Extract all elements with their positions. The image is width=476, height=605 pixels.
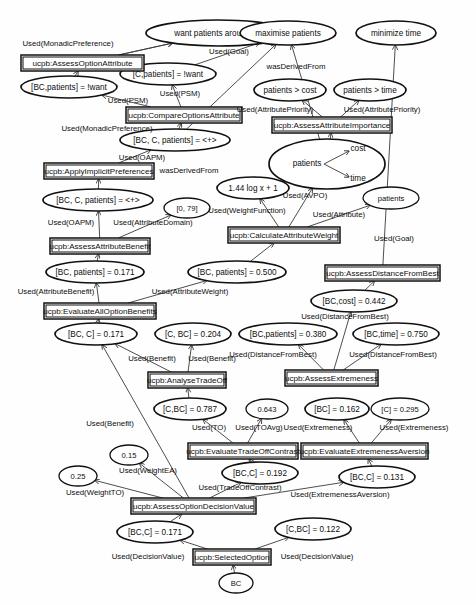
entity-node[interactable]: [BC,time] = 0.750 xyxy=(353,323,439,345)
entity-node[interactable]: [BC, C] = 0.171 xyxy=(55,323,137,345)
activity-node[interactable]: ucpb:AssessDistanceFromBest xyxy=(325,265,440,281)
entity-node[interactable]: [BC,C] = 0.131 xyxy=(339,466,415,488)
activity-label: ucpb:SelectedOption xyxy=(194,553,269,562)
entity-node[interactable]: patients xyxy=(363,187,419,209)
activity-label: ucpb:AssessAttributeBenefit xyxy=(49,242,151,251)
activity-node[interactable]: ucpb:AssessAttributeBenefit xyxy=(49,238,151,254)
activity-node[interactable]: ucpb:EvaluateTradeOffContrast xyxy=(186,443,300,459)
edge-label: Used(DecisionValue) xyxy=(112,552,185,561)
entity-node[interactable]: [BC, C, patients] = <+> xyxy=(43,189,153,211)
entity-node[interactable]: 0.15 xyxy=(110,445,148,465)
activity-node[interactable]: ucpb:CalculateAttributeWeight xyxy=(228,227,340,243)
entity-node[interactable]: [BC,patients] = !want xyxy=(21,76,117,98)
entity-ellipse xyxy=(269,139,385,189)
edge-label: Used(PSM) xyxy=(108,96,149,105)
entity-label: [BC,cost] = 0.442 xyxy=(322,297,385,306)
edge-label: Used(DistanceFromBest) xyxy=(229,350,317,359)
edge-label: Used(Goal) xyxy=(374,234,414,243)
activity-label: ucpb:EvaluateTradeOffContrast xyxy=(186,447,300,456)
graph-edge xyxy=(233,565,234,573)
entity-node[interactable]: [BC,C] = 0.171 xyxy=(117,521,193,543)
entity-node[interactable]: 0.643 xyxy=(246,399,288,419)
edge-label: Used(DecisionValue) xyxy=(281,552,354,561)
edge-label: Used(Attribute) xyxy=(313,210,366,219)
entity-node[interactable]: [BC, patients] = 0.171 xyxy=(46,261,144,283)
entity-label: maximise patients xyxy=(255,29,321,38)
edge-label: Used(WeightEA) xyxy=(119,466,177,475)
graph-edge xyxy=(180,540,207,549)
activity-node[interactable]: ucpb:EvaluateAllOptionBenefits xyxy=(43,303,156,319)
entity-node[interactable]: 1.44 log x + 1 xyxy=(217,177,289,199)
entity-node[interactable]: minimize time xyxy=(356,21,436,45)
activity-label: ucpb:CalculateAttributeWeight xyxy=(230,231,339,240)
edge-label: Used(MonadicPreference) xyxy=(61,124,152,133)
entity-node[interactable]: 0.25 xyxy=(59,466,97,486)
entity-label: [C,BC] = 0.787 xyxy=(163,405,217,414)
edge-label: Used(DistanceFromBest) xyxy=(349,350,437,359)
entity-node[interactable]: [0, 79] xyxy=(164,198,210,218)
activity-node[interactable]: ucpb:AssessOptionDecisionValue xyxy=(131,498,256,514)
graph-edge xyxy=(96,283,99,303)
graph-edge xyxy=(365,281,375,290)
entity-node[interactable]: [C, BC] = 0.204 xyxy=(155,323,231,345)
activity-label: ucpb:AnalyseTradeOff xyxy=(147,376,228,385)
activity-label: ucpb:AssessExtremeness xyxy=(285,374,378,383)
activity-node[interactable]: ucpb:AssessOptionAttribute xyxy=(21,55,144,71)
entity-node[interactable]: [BC,C] = 0.192 xyxy=(222,462,298,484)
activity-node[interactable]: ucpb:EvaluateExtremenessAversion xyxy=(300,443,430,459)
activity-node[interactable]: ucpb:SelectedOption xyxy=(193,549,271,565)
activity-label: ucpb:AssessDistanceFromBest xyxy=(326,269,439,278)
edge-label: Used(AttributePriority) xyxy=(344,105,421,114)
entity-label: [BC, C, patients] = <+> xyxy=(56,196,140,205)
activity-node[interactable]: ucpb:CompareOptionsAttribute xyxy=(126,107,242,123)
entity-node[interactable]: BC xyxy=(219,573,253,593)
entity-label: [BC,C] = 0.192 xyxy=(233,469,287,478)
entity-node[interactable]: [C,BC] = 0.122 xyxy=(275,518,351,540)
edge-label: Used(AttributeDomain) xyxy=(113,218,193,227)
entity-node[interactable]: [BC,cost] = 0.442 xyxy=(311,290,397,312)
edge-label: wasDerivedFrom xyxy=(266,62,326,71)
entity-label: [BC, C] = 0.171 xyxy=(68,330,125,339)
entity-label: [BC,patients] = 0.380 xyxy=(250,330,327,339)
activity-node[interactable]: ucpb:ApplyImplicitPreferences xyxy=(44,163,154,179)
edge-label: Used(AVPO) xyxy=(283,191,328,200)
edge-label: Used(ExtremenessAversion) xyxy=(290,490,389,499)
entity-node[interactable]: patients > cost xyxy=(254,79,326,101)
edge-label: Used(MonadicPreference) xyxy=(22,39,113,48)
entity-label: BC xyxy=(231,579,242,588)
entity-label: [BC,time] = 0.750 xyxy=(364,330,428,339)
graph-edge xyxy=(170,514,182,522)
entity-node[interactable]: patients > time xyxy=(334,79,406,101)
entity-node[interactable]: [C,BC] = 0.787 xyxy=(154,398,226,420)
entity-node[interactable]: [C] = 0.295 xyxy=(371,398,429,420)
graph-edge xyxy=(250,243,273,261)
activity-label: ucpb:AssessOptionDecisionValue xyxy=(133,502,254,511)
provenance-graph-svg: want patients around 50maximise patients… xyxy=(0,0,476,605)
activity-node[interactable]: ucpb:AnalyseTradeOff xyxy=(147,372,228,388)
entity-label: patients xyxy=(378,194,405,203)
entity-node[interactable]: maximise patients xyxy=(240,21,336,45)
entity-label: patients > cost xyxy=(263,86,317,95)
entity-node[interactable]: [BC] = 0.162 xyxy=(305,398,369,420)
entity-label: patients > time xyxy=(343,86,397,95)
entity-node[interactable]: patientscosttime xyxy=(269,139,385,189)
entity-label: [BC, patients] = 0.171 xyxy=(56,268,135,277)
graph-edge xyxy=(383,45,395,265)
entity-label: [BC, patients] = 0.500 xyxy=(198,268,277,277)
entity-inner-label-cost: cost xyxy=(350,144,366,153)
edge-label: Used(Extremeness) xyxy=(380,423,449,432)
graph-edge xyxy=(330,133,331,139)
activity-label: ucpb:CompareOptionsAttribute xyxy=(128,111,240,120)
graph-edge xyxy=(188,388,189,398)
activity-node[interactable]: ucpb:AssessExtremeness xyxy=(285,370,378,386)
entity-label: 0.25 xyxy=(71,472,86,481)
activity-label: ucpb:EvaluateExtremenessAversion xyxy=(300,447,430,456)
entity-node[interactable]: [BC,patients] = 0.380 xyxy=(239,323,337,345)
activity-node[interactable]: ucpb:AssessAttributeImportance xyxy=(272,117,392,133)
edge-label: Used(TO) xyxy=(192,423,226,432)
entity-label: minimize time xyxy=(371,29,421,38)
entity-node[interactable]: [BC, patients] = 0.500 xyxy=(188,261,286,283)
edge-label: Used(OAPM) xyxy=(48,218,95,227)
entity-label: [BC,C] = 0.131 xyxy=(350,473,404,482)
graph-edge xyxy=(255,537,289,549)
